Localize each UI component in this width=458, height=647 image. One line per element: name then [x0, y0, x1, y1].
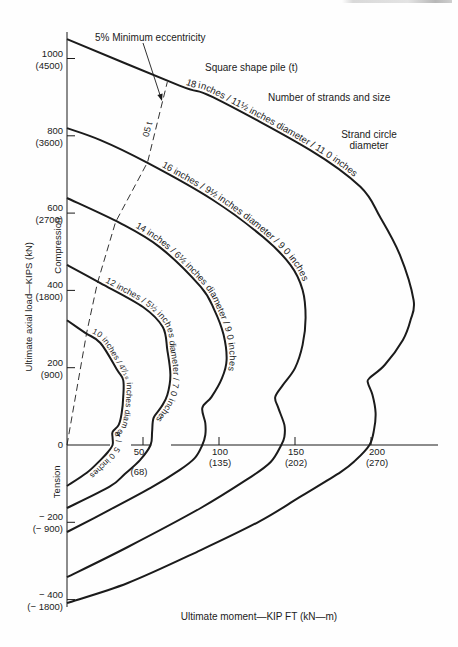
x-tick-label: 200: [357, 447, 397, 457]
curve-16-inch-pile: [67, 128, 306, 577]
curve-label-14-inch: 14 inches / 6½ inches diameter / 9 0 inc…: [134, 221, 237, 373]
eccentricity-pointer-arrow: [143, 43, 161, 98]
x-tick-label: 150: [276, 447, 316, 457]
curve-14-inch-pile: [67, 198, 227, 532]
y-tick-label-kn: (− 1800): [27, 602, 63, 612]
min-eccentricity-line: [67, 82, 167, 445]
x-tick-label-knm: (68): [119, 467, 159, 477]
x-tick-label-knm: (270): [357, 458, 397, 468]
axis-ticks: [67, 59, 371, 600]
y-tick-label-kn: (900): [41, 370, 63, 380]
y-tick-label: − 200: [39, 512, 63, 522]
strands-annotation: Number of strands and size: [268, 93, 390, 103]
y-tick-label: − 400: [39, 590, 63, 600]
y-tick-label: 800: [47, 126, 63, 136]
y-tick-label: 0: [58, 440, 63, 450]
y-tick-label: 600: [47, 203, 63, 213]
x-tick-label-knm: (135): [200, 458, 240, 468]
y-tick-label-kn: (3600): [36, 138, 63, 148]
x-tick-label-knm: (202): [276, 458, 316, 468]
y-tick-label-kn: (− 900): [33, 524, 63, 534]
strand-circle-annotation-line1: Strand circle: [328, 130, 410, 140]
x-axis-title: Ultimate moment—KIP FT (kN—m): [169, 612, 349, 622]
min-eccentricity-annotation: 5% Minimum eccentricity: [95, 33, 206, 43]
y-tick-label-kn: (1800): [36, 292, 63, 302]
y-axis-title: Ultimate axial load—KIPS (kN): [24, 207, 34, 407]
arrowhead-icon: [157, 93, 162, 101]
curve-10-inch-pile: [67, 320, 124, 486]
y-tick-label-kn: (4500): [36, 61, 63, 71]
y-tick-label: 1000: [42, 49, 63, 59]
x-tick-label: 100: [200, 447, 240, 457]
curve-18-inch-pile: [67, 39, 414, 603]
x-tick-label: 50: [119, 447, 159, 457]
pile-shape-annotation: Square shape pile (t): [205, 63, 298, 73]
strand-circle-annotation-line2: diameter: [328, 141, 410, 151]
y-tick-label: 200: [47, 358, 63, 368]
y-tick-label-kn: (2700): [36, 215, 63, 225]
y-tick-label: 400: [47, 280, 63, 290]
curve-label-10-inch: 10 inches / 4⁷⁄₁₆ inches diameter / 5 0 …: [88, 327, 134, 480]
